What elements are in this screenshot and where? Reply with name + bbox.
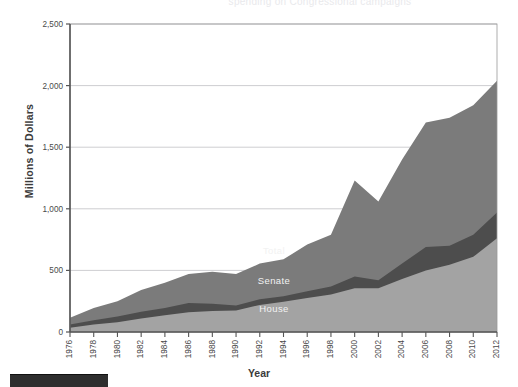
y-tick-label: 1,500 [43, 143, 64, 152]
y-axis-title: Millions of Dollars [23, 71, 35, 231]
x-tick-label: 1976 [65, 340, 74, 359]
x-tick-label: 1992 [255, 340, 264, 359]
footer-bar [10, 374, 108, 387]
x-tick-label: 1996 [302, 340, 311, 359]
y-tick-label: 1,000 [43, 205, 64, 214]
area-series-group [70, 81, 497, 332]
x-tick-label: 2012 [492, 340, 501, 359]
x-tick-label: 1998 [326, 340, 335, 359]
x-tick-label: 1982 [136, 340, 145, 359]
series-label-senate: Senate [258, 275, 291, 286]
y-tick-labels-group: 05001,0001,5002,0002,500 [43, 20, 71, 337]
x-tick-label: 2010 [468, 340, 477, 359]
x-tick-label: 1986 [184, 340, 193, 359]
series-inline-labels-group: TotalSenateHouse [258, 245, 291, 314]
x-tick-label: 2000 [350, 340, 359, 359]
y-tick-label: 2,500 [43, 20, 64, 29]
x-tick-labels-group: 1976197819801982198419861988199019921994… [65, 332, 501, 358]
x-tick-label: 2008 [445, 340, 454, 359]
x-tick-label: 1984 [160, 340, 169, 359]
series-label-house: House [259, 303, 288, 314]
x-tick-label: 1978 [89, 340, 98, 359]
x-tick-label: 2006 [421, 340, 430, 359]
x-tick-label: 1990 [231, 340, 240, 359]
x-tick-label: 1980 [113, 340, 122, 359]
x-tick-label: 2004 [397, 340, 406, 359]
x-tick-label: 1994 [279, 340, 288, 359]
y-tick-label: 0 [58, 328, 63, 337]
x-tick-label: 1988 [208, 340, 217, 359]
y-tick-label: 2,000 [43, 82, 64, 91]
y-tick-label: 500 [49, 266, 63, 275]
series-label-total: Total [263, 245, 285, 256]
x-tick-label: 2002 [374, 340, 383, 359]
